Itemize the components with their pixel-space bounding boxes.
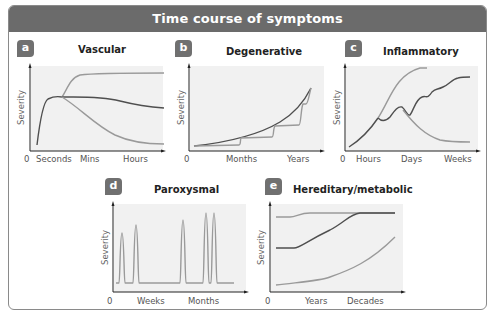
svg-text:0: 0 [265, 296, 270, 306]
svg-text:Decades: Decades [347, 296, 384, 306]
y-axis-label-hereditary: Severity [256, 230, 266, 265]
svg-text:Years: Years [304, 296, 328, 306]
chart-hereditary-metabolic: Severity 0 Years Decades [0, 0, 492, 318]
